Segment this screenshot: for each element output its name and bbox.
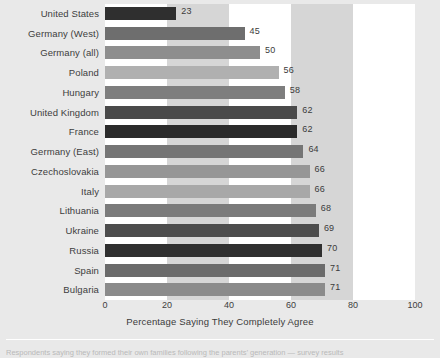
category-label: Bulgaria xyxy=(63,280,99,300)
bar-value-label: 71 xyxy=(330,282,340,292)
bar[interactable] xyxy=(105,185,310,198)
x-tick-label: 0 xyxy=(102,300,107,310)
bar[interactable] xyxy=(105,86,285,99)
bar[interactable] xyxy=(105,66,279,79)
bar[interactable] xyxy=(105,27,245,40)
bar-row: 56 xyxy=(105,63,415,83)
category-label: Italy xyxy=(81,182,99,202)
bar[interactable] xyxy=(105,46,260,59)
bar-value-label: 71 xyxy=(330,263,340,273)
bar-value-label: 68 xyxy=(321,203,331,213)
bar-value-label: 56 xyxy=(284,65,294,75)
bar-row: 70 xyxy=(105,241,415,261)
bar-value-label: 66 xyxy=(315,184,325,194)
category-label: Poland xyxy=(69,63,99,83)
bar[interactable] xyxy=(105,224,319,237)
x-tick-label: 80 xyxy=(348,300,358,310)
bar-value-label: 62 xyxy=(302,105,312,115)
bar-value-label: 70 xyxy=(327,243,337,253)
x-axis-ticks: 020406080100 xyxy=(105,300,415,316)
figure-caption: Respondents saying they formed their own… xyxy=(6,348,434,357)
category-label: Germany (East) xyxy=(31,142,99,162)
category-label: United States xyxy=(41,4,99,24)
category-label: Hungary xyxy=(62,83,99,103)
bar-row: 45 xyxy=(105,24,415,44)
bar-row: 68 xyxy=(105,201,415,221)
category-label: Lithuania xyxy=(60,201,99,221)
bar-row: 66 xyxy=(105,182,415,202)
bar-rows: 234550565862626466666869707171 xyxy=(105,4,415,300)
bar-row: 69 xyxy=(105,221,415,241)
bar-row: 50 xyxy=(105,43,415,63)
category-label: France xyxy=(69,122,99,142)
bar-row: 62 xyxy=(105,103,415,123)
bar-value-label: 66 xyxy=(315,164,325,174)
plot-area: 234550565862626466666869707171 xyxy=(105,4,415,300)
bar[interactable] xyxy=(105,125,297,138)
bar-value-label: 62 xyxy=(302,124,312,134)
bar-row: 66 xyxy=(105,162,415,182)
bar[interactable] xyxy=(105,165,310,178)
category-axis-labels: United StatesGermany (West)Germany (all)… xyxy=(0,4,99,300)
bar-row: 71 xyxy=(105,280,415,300)
bar-row: 64 xyxy=(105,142,415,162)
bar-row: 71 xyxy=(105,261,415,281)
x-tick-label: 40 xyxy=(224,300,234,310)
category-label: Czechoslovakia xyxy=(31,162,99,182)
bar[interactable] xyxy=(105,145,303,158)
x-axis-title: Percentage Saying They Completely Agree xyxy=(0,316,440,327)
category-label: Germany (West) xyxy=(28,24,99,44)
category-label: United Kingdom xyxy=(30,103,99,123)
bar-chart-figure: 234550565862626466666869707171 United St… xyxy=(0,0,440,358)
bar-value-label: 69 xyxy=(324,223,334,233)
caption-clip: Respondents saying they formed their own… xyxy=(0,348,440,358)
bar-value-label: 23 xyxy=(181,6,191,16)
bar-row: 58 xyxy=(105,83,415,103)
footer-divider xyxy=(6,339,434,340)
bar[interactable] xyxy=(105,106,297,119)
category-label: Russia xyxy=(69,241,99,261)
x-tick-label: 100 xyxy=(407,300,422,310)
category-label: Germany (all) xyxy=(40,43,99,63)
x-tick-label: 60 xyxy=(286,300,296,310)
bar[interactable] xyxy=(105,7,176,20)
category-label: Spain xyxy=(74,261,99,281)
bar[interactable] xyxy=(105,264,325,277)
bar-value-label: 64 xyxy=(308,144,318,154)
bar[interactable] xyxy=(105,283,325,296)
bar-value-label: 58 xyxy=(290,85,300,95)
bar[interactable] xyxy=(105,244,322,257)
bar[interactable] xyxy=(105,204,316,217)
bar-value-label: 50 xyxy=(265,45,275,55)
category-label: Ukraine xyxy=(66,221,99,241)
bar-value-label: 45 xyxy=(250,26,260,36)
bar-row: 23 xyxy=(105,4,415,24)
x-tick-label: 20 xyxy=(162,300,172,310)
bar-row: 62 xyxy=(105,122,415,142)
